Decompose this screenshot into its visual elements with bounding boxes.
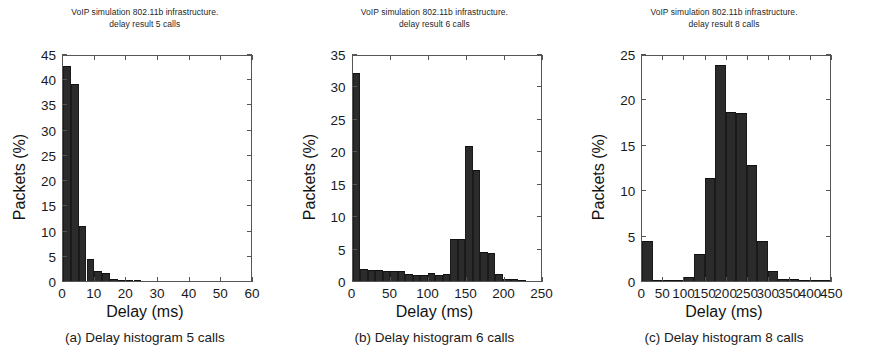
x-tick-label: 150 xyxy=(454,286,477,301)
x-tick xyxy=(810,277,811,282)
panel-a-title-line2: delay result 5 calls xyxy=(0,18,290,30)
x-tick-label: 50 xyxy=(382,286,397,301)
panel-c-title-line1: VoIP simulation 802.11b infrastructure. xyxy=(650,7,797,17)
y-tick xyxy=(537,151,542,152)
x-tick xyxy=(747,55,748,60)
histogram-bar xyxy=(642,241,652,282)
x-tick xyxy=(352,277,353,282)
panel-b-title-line1: VoIP simulation 802.11b infrastructure. xyxy=(361,7,508,17)
y-tick xyxy=(352,249,357,250)
y-tick-label: 25 xyxy=(331,112,346,127)
x-tick xyxy=(504,277,505,282)
x-tick xyxy=(789,55,790,60)
x-tick xyxy=(662,277,663,282)
x-tick xyxy=(705,55,706,60)
x-tick xyxy=(683,277,684,282)
x-tick-label: 250 xyxy=(530,286,553,301)
x-tick xyxy=(726,55,727,60)
x-tick-label: 60 xyxy=(244,286,259,301)
x-tick xyxy=(220,277,221,282)
panel-b-title-line2: delay result 6 calls xyxy=(290,18,580,30)
x-tick xyxy=(352,55,353,60)
x-tick xyxy=(252,55,253,60)
panel-b-plot: 05101520253035050100150200250 xyxy=(352,55,542,282)
y-tick xyxy=(247,180,252,181)
y-tick-label: 45 xyxy=(41,48,56,63)
histogram-bar xyxy=(413,275,421,281)
panel-c-plot: 0510152025050100150200250300350400450 xyxy=(641,55,831,282)
panel-b-xlabel: Delay (ms) xyxy=(290,303,580,321)
x-tick-label: 30 xyxy=(149,286,164,301)
histogram-bar xyxy=(71,84,79,282)
x-tick-label: 50 xyxy=(213,286,228,301)
y-tick-label: 25 xyxy=(41,148,56,163)
x-tick-label: 200 xyxy=(714,286,737,301)
histogram-bar xyxy=(443,274,451,281)
y-tick xyxy=(247,155,252,156)
panel-a-caption: (a) Delay histogram 5 calls xyxy=(0,330,290,345)
histogram-bar xyxy=(360,269,368,281)
histogram-bar xyxy=(405,274,413,281)
x-tick xyxy=(390,277,391,282)
x-tick-label: 450 xyxy=(820,286,843,301)
y-tick xyxy=(641,99,646,100)
histogram-bar xyxy=(126,280,134,281)
y-tick-label: 30 xyxy=(41,123,56,138)
histogram-bar xyxy=(102,273,110,281)
histogram-bar xyxy=(674,280,684,281)
y-tick-label: 5 xyxy=(628,229,636,244)
histogram-bar xyxy=(705,178,715,282)
histogram-bar xyxy=(663,280,673,281)
x-tick xyxy=(641,55,642,60)
y-tick-label: 0 xyxy=(628,275,636,290)
panel-a-plot: 0510152025303540450102030405060 xyxy=(62,55,252,282)
panel-c-axes xyxy=(641,55,831,282)
x-tick-label: 200 xyxy=(492,286,515,301)
histogram-bar xyxy=(495,274,503,281)
x-tick-label: 50 xyxy=(655,286,670,301)
y-tick-label: 25 xyxy=(620,48,635,63)
x-tick-label: 300 xyxy=(757,286,780,301)
histogram-bar xyxy=(715,65,725,281)
x-tick-label: 0 xyxy=(637,286,645,301)
x-tick xyxy=(62,277,63,282)
y-tick xyxy=(641,190,646,191)
y-tick xyxy=(62,104,67,105)
x-tick xyxy=(662,55,663,60)
y-tick xyxy=(247,205,252,206)
y-tick xyxy=(352,119,357,120)
panel-c-xlabel: Delay (ms) xyxy=(579,303,869,321)
y-tick xyxy=(826,190,831,191)
y-tick xyxy=(641,145,646,146)
histogram-bar xyxy=(63,66,71,281)
histogram-bar xyxy=(473,170,481,281)
x-tick xyxy=(94,55,95,60)
panel-a-bars xyxy=(63,56,251,281)
y-tick-label: 20 xyxy=(41,174,56,189)
y-tick xyxy=(62,231,67,232)
panel-c-bars xyxy=(642,56,830,281)
y-tick xyxy=(247,256,252,257)
histogram-bar xyxy=(398,271,406,281)
y-tick xyxy=(247,79,252,80)
y-tick-label: 40 xyxy=(41,73,56,88)
histogram-bar xyxy=(428,273,436,281)
histogram-bar xyxy=(458,239,466,281)
panel-a-title-line1: VoIP simulation 802.11b infrastructure. xyxy=(71,7,218,17)
x-tick xyxy=(125,277,126,282)
panel-c-caption: (c) Delay histogram 8 calls xyxy=(579,330,869,345)
x-tick xyxy=(810,55,811,60)
histogram-bar xyxy=(390,271,398,281)
panel-a-ylabel: Packets (%) xyxy=(11,92,29,262)
x-tick-label: 150 xyxy=(693,286,716,301)
y-tick xyxy=(826,236,831,237)
x-tick xyxy=(466,277,467,282)
panel-b: VoIP simulation 802.11b infrastructure. … xyxy=(290,0,580,363)
panel-b-axes xyxy=(352,55,542,282)
y-tick xyxy=(62,205,67,206)
x-tick xyxy=(683,55,684,60)
y-tick xyxy=(62,180,67,181)
x-tick-label: 10 xyxy=(86,286,101,301)
x-tick xyxy=(831,55,832,60)
y-tick xyxy=(537,216,542,217)
